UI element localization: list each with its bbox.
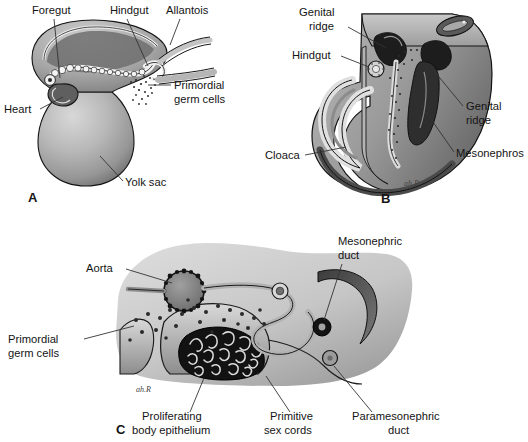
figure-root: Foregut Hindgut Allantois Primordial ger… [0, 0, 528, 442]
label-cloaca: Cloaca [265, 149, 301, 161]
label-mesonephric-duct-line1: Mesonephric [338, 235, 402, 247]
foregut-lumen [48, 78, 52, 82]
label-hindgut: Hindgut [110, 4, 149, 16]
panel-letter-c: C [116, 422, 126, 437]
label-proliferating-body-epithelium-line2: body epithelium [132, 424, 210, 436]
label-primitive-sex-cords-line2: sex cords [264, 424, 312, 436]
label-aorta: Aorta [86, 262, 114, 274]
leader-allantois [170, 19, 180, 45]
panel-b-illustration: ah.R [312, 12, 492, 193]
panel-a: Foregut Hindgut Allantois Primordial ger… [4, 4, 225, 205]
label-genital-ridge-left-line2: ridge [309, 20, 334, 32]
mesonephric-duct-lumen-inner-c [319, 324, 326, 331]
label-foregut: Foregut [32, 4, 71, 16]
label-primordial-germ-cells-line1: Primordial [174, 79, 224, 91]
paramesonephric-duct-lumen-c [327, 355, 332, 360]
label-primitive-sex-cords-line1: Primitive [270, 410, 313, 422]
label-proliferating-body-epithelium-line1: Proliferating [142, 410, 202, 422]
yolk-sac-shape [38, 92, 134, 186]
neural-canal-b [462, 20, 465, 23]
label-primordial-germ-cells-c-line2: germ cells [8, 347, 59, 359]
renal-corpuscle-tuft-c [276, 287, 284, 295]
label-primordial-germ-cells-c-line1: Primordial [8, 333, 58, 345]
artist-signature-b: ah.R [404, 179, 419, 188]
label-allantois: Allantois [166, 4, 209, 16]
label-primordial-germ-cells-line2: germ cells [174, 93, 225, 105]
artist-signature-c: ah.R [136, 385, 151, 394]
panel-b: ah.R Genital ridge Hindgut Cloaca Genita… [265, 6, 524, 206]
panel-c-illustration: ah.R [116, 243, 412, 394]
label-hindgut-b: Hindgut [292, 49, 331, 61]
label-genital-ridge-right-line1: Genital [466, 100, 501, 112]
label-paramesonephric-duct-line1: Paramesonephric [352, 410, 440, 422]
panel-letter-a: A [28, 190, 38, 205]
label-mesonephric-duct-line2: duct [338, 249, 360, 261]
panel-letter-b: B [381, 191, 390, 206]
label-paramesonephric-duct-line2: duct [388, 424, 410, 436]
label-genital-ridge-right-line2: ridge [466, 114, 491, 126]
panel-c: ah.R Aorta Primordial germ cells Mesonep… [8, 235, 440, 437]
figure-svg: Foregut Hindgut Allantois Primordial ger… [0, 0, 528, 442]
label-mesonephros: Mesonephros [456, 147, 524, 159]
hindgut-lumen-b [372, 65, 379, 72]
label-yolk-sac: Yolk sac [125, 176, 167, 188]
label-genital-ridge-left-line1: Genital [299, 6, 334, 18]
label-heart: Heart [4, 103, 32, 115]
